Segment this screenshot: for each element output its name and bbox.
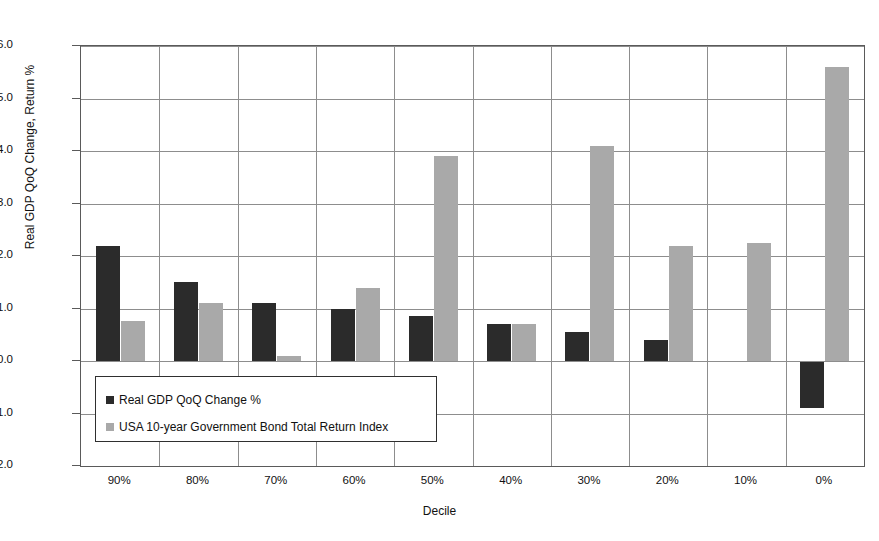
y-axis-tick-mark: [72, 360, 80, 361]
bar-70pct-series0: [252, 303, 276, 361]
bar-60pct-series0: [331, 309, 355, 362]
bar-50pct-series1: [434, 156, 458, 361]
bar-80pct-series1: [199, 303, 223, 361]
y-axis-tick-label: 3.0: [0, 197, 13, 209]
y-axis-tick-mark: [72, 255, 80, 256]
y-axis-tick-mark: [72, 465, 80, 466]
bar-20pct-series0: [644, 340, 668, 361]
y-axis-tick-label: 1.0: [0, 302, 13, 314]
bar-90pct-series0: [96, 246, 120, 362]
y-axis-tick-label: 4.0: [0, 144, 13, 156]
y-axis-tick-label: -1.0: [0, 407, 13, 419]
x-axis-tick-label: 20%: [627, 474, 707, 486]
bar-80pct-series0: [174, 282, 198, 361]
gridline-vertical: [786, 46, 787, 466]
x-axis-tick-label: 0%: [784, 474, 864, 486]
y-axis-tick-label: 0.0: [0, 354, 13, 366]
bar-20pct-series1: [669, 246, 693, 362]
y-axis-tick-label: 5.0: [0, 92, 13, 104]
x-axis-tick-label: 30%: [549, 474, 629, 486]
bar-90pct-series1: [121, 321, 145, 361]
x-axis-tick-label: 10%: [706, 474, 786, 486]
y-axis-tick-mark: [72, 413, 80, 414]
x-axis-tick-label: 40%: [471, 474, 551, 486]
x-axis-title: Decile: [0, 504, 879, 518]
legend-label-bond: USA 10-year Government Bond Total Return…: [119, 421, 388, 433]
y-axis-tick-label: -2.0: [0, 459, 13, 471]
y-axis-tick-label: 6.0: [0, 39, 13, 51]
legend-item-gdp: Real GDP QoQ Change %: [106, 386, 428, 413]
bar-40pct-series0: [487, 324, 511, 361]
legend-item-bond: USA 10-year Government Bond Total Return…: [106, 413, 428, 440]
legend-swatch-icon-bond: [106, 423, 114, 431]
gridline-vertical: [551, 46, 552, 466]
x-axis-tick-label: 80%: [157, 474, 237, 486]
bar-40pct-series1: [512, 324, 536, 361]
y-axis-tick-mark: [72, 98, 80, 99]
y-axis-tick-mark: [72, 45, 80, 46]
bar-50pct-series0: [409, 316, 433, 361]
x-axis-tick-label: 70%: [236, 474, 316, 486]
x-axis-tick-label: 90%: [79, 474, 159, 486]
bar-30pct-series0: [565, 332, 589, 361]
chart-legend: Real GDP QoQ Change % USA 10-year Govern…: [95, 376, 437, 442]
y-axis-tick-label: 2.0: [0, 249, 13, 261]
x-axis-tick-label: 50%: [392, 474, 472, 486]
gridline-vertical: [629, 46, 630, 466]
bar-30pct-series1: [590, 146, 614, 361]
y-axis-tick-mark: [72, 308, 80, 309]
bar-60pct-series1: [356, 288, 380, 362]
y-axis-tick-mark: [72, 203, 80, 204]
y-axis-tick-mark: [72, 150, 80, 151]
bar-0pct-series1: [825, 67, 849, 361]
chart-container: Real GDP QoQ Change, Return % 6.05.04.03…: [0, 0, 879, 541]
zero-baseline: [81, 361, 864, 362]
gridline-vertical: [707, 46, 708, 466]
legend-swatch-icon-gdp: [106, 396, 114, 404]
gridline-vertical: [473, 46, 474, 466]
legend-label-gdp: Real GDP QoQ Change %: [119, 394, 261, 406]
bar-0pct-series0: [800, 361, 824, 408]
x-axis-tick-label: 60%: [314, 474, 394, 486]
bar-10pct-series1: [747, 243, 771, 361]
y-axis-title: Real GDP QoQ Change, Return %: [23, 0, 37, 337]
